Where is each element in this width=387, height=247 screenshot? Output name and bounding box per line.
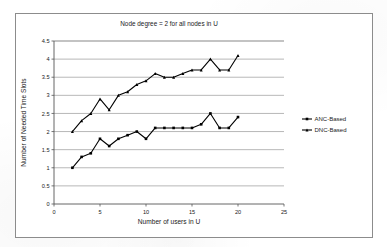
x-axis-ticks: 0510152025: [52, 204, 287, 215]
y-tick-label: 2: [46, 129, 49, 135]
y-tick-label: 4.5: [42, 38, 50, 44]
figure-frame: Node degree = 2 for all nodes in U00.511…: [15, 13, 373, 238]
y-tick-label: 4: [46, 56, 49, 62]
data-point-marker: [126, 134, 129, 137]
data-point-marker: [200, 123, 203, 126]
y-tick-label: 2.5: [42, 111, 50, 117]
legend-item-dnc-based[interactable]: DNC-Based: [302, 127, 347, 133]
x-axis-label: Number of users in U: [138, 218, 201, 225]
gridlines: [54, 41, 284, 186]
data-point-marker: [237, 116, 240, 119]
legend-label: ANC-Based: [315, 116, 347, 122]
x-tick-label: 0: [52, 209, 55, 215]
legend-item-anc-based[interactable]: ANC-Based: [302, 116, 346, 122]
data-point-marker: [218, 127, 221, 130]
data-point-marker: [108, 145, 111, 148]
x-tick-label: 25: [281, 209, 287, 215]
data-point-marker: [99, 97, 102, 100]
y-tick-label: 0: [46, 201, 49, 207]
y-tick-label: 1.5: [42, 147, 50, 153]
y-tick-label: 3: [46, 92, 49, 98]
data-point-marker: [172, 127, 175, 130]
x-tick-label: 20: [235, 209, 241, 215]
x-tick-label: 5: [98, 209, 101, 215]
x-tick-label: 15: [189, 209, 195, 215]
data-point-marker: [191, 127, 194, 130]
y-axis-label: Number of Needed Time Slots: [20, 78, 27, 167]
data-point-marker: [99, 138, 102, 141]
y-axis-ticks: 00.511.522.533.544.5: [42, 38, 54, 207]
series-line: [72, 55, 238, 131]
data-point-marker: [163, 127, 166, 130]
series-line: [72, 113, 238, 167]
data-point-marker: [154, 127, 157, 130]
legend: ANC-BasedDNC-Based: [302, 116, 347, 133]
chart-title: Node degree = 2 for all nodes in U: [120, 20, 218, 28]
y-tick-label: 0.5: [42, 183, 50, 189]
data-point-marker: [237, 54, 240, 57]
data-point-marker: [228, 127, 231, 130]
chart-canvas: Node degree = 2 for all nodes in U00.511…: [16, 14, 372, 237]
data-point-marker: [80, 156, 83, 159]
data-point-marker: [145, 138, 148, 141]
legend-label: DNC-Based: [315, 127, 347, 133]
data-point-marker: [117, 138, 120, 141]
page-canvas: Node degree = 2 for all nodes in U00.511…: [0, 0, 387, 247]
x-tick-label: 10: [143, 209, 149, 215]
legend-marker: [306, 118, 309, 121]
data-point-marker: [90, 152, 93, 155]
data-point-marker: [71, 166, 74, 169]
data-point-marker: [182, 127, 185, 130]
y-tick-label: 3.5: [42, 74, 50, 80]
y-tick-label: 1: [46, 165, 49, 171]
series-dnc-based: [71, 54, 240, 133]
data-point-marker: [209, 112, 212, 115]
data-point-marker: [136, 130, 139, 133]
series-anc-based: [71, 112, 239, 169]
